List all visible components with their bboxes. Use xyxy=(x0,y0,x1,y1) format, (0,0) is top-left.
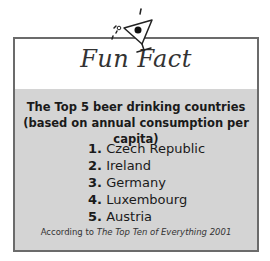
source-title: The Top Ten of Everything 2001 xyxy=(97,227,232,237)
list-item: 1. Czech Republic xyxy=(88,140,205,157)
martini-glass-icon xyxy=(104,6,160,56)
source-citation: According to The Top Ten of Everything 2… xyxy=(15,227,257,237)
item-label: Ireland xyxy=(106,158,151,173)
country-list: 1. Czech Republic 2. Ireland 3. Germany … xyxy=(88,140,205,225)
list-item: 3. Germany xyxy=(88,174,205,191)
list-item: 4. Luxembourg xyxy=(88,191,205,208)
item-label: Luxembourg xyxy=(106,192,187,207)
list-item: 5. Austria xyxy=(88,208,205,225)
item-number: 4. xyxy=(88,192,102,207)
item-number: 3. xyxy=(88,175,102,190)
item-label: Germany xyxy=(106,175,166,190)
item-label: Czech Republic xyxy=(106,141,205,156)
source-prefix: According to xyxy=(41,227,97,237)
item-number: 5. xyxy=(88,209,102,224)
item-number: 2. xyxy=(88,158,102,173)
item-number: 1. xyxy=(88,141,102,156)
fun-fact-box: Fun Fact The Top 5 beer drinking countri… xyxy=(13,37,259,252)
heading-line-1: The Top 5 beer drinking countries xyxy=(15,99,257,115)
item-label: Austria xyxy=(106,209,152,224)
list-item: 2. Ireland xyxy=(88,157,205,174)
